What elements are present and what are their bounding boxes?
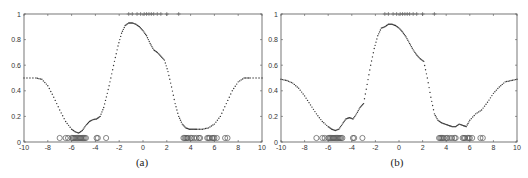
x-tick-label: 4 <box>444 144 448 151</box>
y-tick-label: 0 <box>274 139 278 146</box>
x-tick-label: -2 <box>116 144 122 151</box>
y-tick-label: 0 <box>17 139 21 146</box>
class0-markers <box>57 135 230 140</box>
y-tick-label: 0.6 <box>11 62 21 69</box>
probability-curve <box>23 22 262 133</box>
x-tick-label: 4 <box>189 144 193 151</box>
x-tick-label: 2 <box>421 144 425 151</box>
x-tick-label: 10 <box>258 144 266 151</box>
y-tick-label: 1 <box>17 11 21 18</box>
y-tick-label: 0.8 <box>268 36 278 43</box>
y-tick-label: 0.8 <box>11 36 21 43</box>
panel-caption: (a) <box>136 156 149 169</box>
x-tick-label: 6 <box>468 144 472 151</box>
axes-box <box>281 14 517 142</box>
x-tick-label: -8 <box>301 144 307 151</box>
panel-b-chart: -10-8-6-4-2024681000.20.40.60.81(b) <box>268 11 521 170</box>
x-tick-label: 6 <box>212 144 216 151</box>
y-tick-label: 0.2 <box>11 113 21 120</box>
x-tick-label: -8 <box>45 144 51 151</box>
y-tick-label: 0.4 <box>11 87 21 94</box>
x-tick-label: 10 <box>513 144 521 151</box>
panel-a-chart: -10-8-6-4-2024681000.20.40.60.81(a) <box>11 11 266 170</box>
y-tick-label: 0.4 <box>268 87 278 94</box>
y-tick-label: 0.6 <box>268 62 278 69</box>
x-tick-label: 0 <box>141 144 145 151</box>
x-tick-label: -6 <box>68 144 74 151</box>
axes-box <box>24 14 262 142</box>
x-tick-label: 8 <box>236 144 240 151</box>
panel-caption: (b) <box>391 156 404 169</box>
probability-curve <box>280 24 517 132</box>
x-tick-label: 2 <box>165 144 169 151</box>
class0-markers <box>314 135 486 140</box>
x-tick-label: -6 <box>325 144 331 151</box>
x-tick-label: 0 <box>397 144 401 151</box>
x-tick-label: -4 <box>92 144 98 151</box>
y-tick-label: 0.2 <box>268 113 278 120</box>
x-tick-label: -2 <box>372 144 378 151</box>
x-tick-label: -4 <box>349 144 355 151</box>
x-tick-label: 8 <box>491 144 495 151</box>
y-tick-label: 1 <box>274 11 278 18</box>
figure: -10-8-6-4-2024681000.20.40.60.81(a) -10-… <box>0 0 528 178</box>
